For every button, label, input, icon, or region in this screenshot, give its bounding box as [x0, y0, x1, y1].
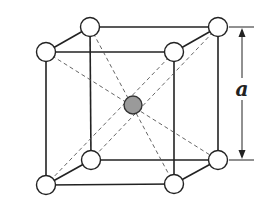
atom-back-bottom-left: [82, 151, 101, 170]
lattice-dimension-marker: a: [229, 27, 254, 160]
bcc-unit-cell-diagram: a: [0, 0, 273, 214]
atom-body-center: [124, 96, 142, 114]
atom-front-bottom-left: [37, 176, 56, 195]
atom-front-top-right: [165, 43, 184, 62]
arrow-up-icon: [239, 28, 246, 37]
arrow-down-icon: [239, 150, 246, 159]
atom-back-top-left: [81, 18, 100, 37]
atom-front-bottom-right: [165, 175, 184, 194]
atom-front-top-left: [37, 43, 56, 62]
atom-back-bottom-right: [209, 151, 228, 170]
atom-back-top-right: [209, 18, 228, 37]
lattice-constant-label: a: [236, 77, 249, 101]
